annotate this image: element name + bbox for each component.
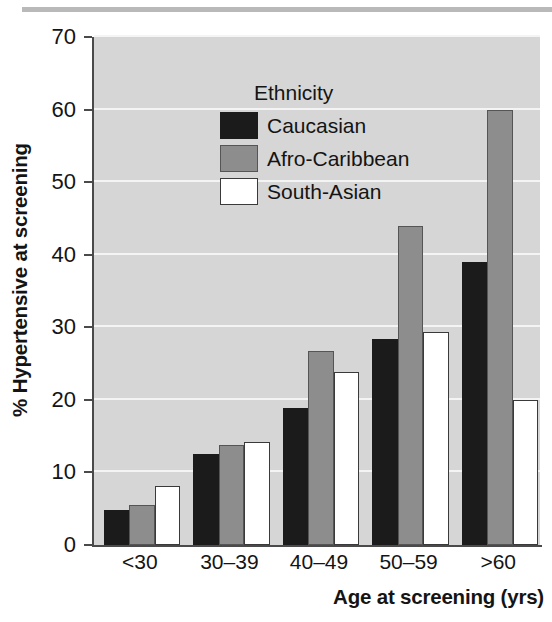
y-tick-mark <box>84 181 92 183</box>
y-tick-mark <box>84 326 92 328</box>
legend-label: Afro-Caribbean <box>267 148 409 169</box>
legend-entry-caucasian: Caucasian <box>220 109 480 142</box>
plot-area: Ethnicity CaucasianAfro-CaribbeanSouth-A… <box>92 37 540 545</box>
bar-south-asian-1 <box>244 442 270 545</box>
bar-caucasian-2 <box>283 408 309 545</box>
legend-swatch-caucasian <box>220 112 258 139</box>
bar-caucasian-1 <box>193 454 219 545</box>
y-tick-label: 60 <box>30 99 76 121</box>
legend-swatch-afro-caribbean <box>220 145 258 172</box>
y-tick-label: 30 <box>30 316 76 338</box>
figure: % Hypertensive at screening 010203040506… <box>0 0 552 622</box>
y-tick-mark <box>84 109 92 111</box>
x-tick-label: 50–59 <box>359 551 459 572</box>
x-tick-label: >60 <box>448 551 548 572</box>
y-tick-label: 10 <box>30 461 76 483</box>
y-tick-mark <box>84 471 92 473</box>
bar-afro-caribbean-2 <box>308 351 334 545</box>
bar-caucasian-4 <box>462 262 488 545</box>
bar-south-asian-2 <box>334 372 360 545</box>
legend-title: Ethnicity <box>254 81 480 105</box>
y-tick-mark <box>84 36 92 38</box>
y-tick-label: 0 <box>30 534 76 556</box>
y-tick-mark <box>84 254 92 256</box>
chart-legend: Ethnicity CaucasianAfro-CaribbeanSouth-A… <box>220 81 480 208</box>
x-axis-line <box>92 545 542 547</box>
bar-south-asian-3 <box>423 332 449 545</box>
bar-caucasian-3 <box>372 339 398 545</box>
legend-label: Caucasian <box>267 115 366 136</box>
x-tick-label: 40–49 <box>269 551 369 572</box>
y-tick-label: 50 <box>30 171 76 193</box>
y-tick-mark <box>84 544 92 546</box>
y-tick-label: 20 <box>30 389 76 411</box>
legend-entries: CaucasianAfro-CaribbeanSouth-Asian <box>220 109 480 208</box>
top-rule-divider <box>22 7 552 12</box>
legend-entry-south-asian: South-Asian <box>220 175 480 208</box>
bar-south-asian-0 <box>155 486 181 546</box>
bar-caucasian-0 <box>104 510 130 545</box>
y-tick-label: 70 <box>30 26 76 48</box>
bar-afro-caribbean-4 <box>487 110 513 545</box>
legend-entry-afro-caribbean: Afro-Caribbean <box>220 142 480 175</box>
bar-afro-caribbean-0 <box>129 505 155 545</box>
legend-swatch-south-asian <box>220 178 258 205</box>
y-tick-mark <box>84 399 92 401</box>
y-tick-label: 40 <box>30 244 76 266</box>
x-axis-title: Age at screening (yrs) <box>333 585 544 609</box>
bar-afro-caribbean-3 <box>398 226 424 545</box>
x-tick-label: 30–39 <box>179 551 279 572</box>
legend-label: South-Asian <box>267 181 381 202</box>
x-tick-label: <30 <box>90 551 190 572</box>
y-axis-title-text: % Hypertensive at screening <box>8 143 32 417</box>
bar-south-asian-4 <box>513 400 539 545</box>
bar-afro-caribbean-1 <box>219 445 245 545</box>
